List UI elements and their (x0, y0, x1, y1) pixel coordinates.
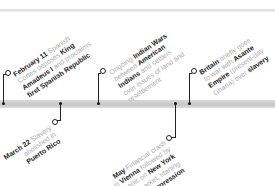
event-label: February 11 SpanishCortes deposes KingAm… (12, 27, 97, 99)
event-label: Britain briefly goesto war with AsanteEm… (198, 34, 270, 98)
event-circle-icon (5, 70, 11, 76)
event-stem (60, 104, 61, 120)
event-circle-icon (191, 68, 197, 74)
event-circle-icon (52, 119, 58, 125)
event-stem (98, 73, 99, 104)
event-circle-icon (100, 68, 106, 74)
timeline-bar (0, 100, 275, 108)
event-circle-icon (166, 135, 172, 141)
event-label: May Financial crashin Vienna followed by… (101, 139, 186, 186)
event-stem (175, 104, 176, 137)
event-label: March 22 Slaveryabolished inPuerto Rico (3, 124, 63, 176)
top-rule (0, 9, 275, 12)
event-stem (3, 74, 4, 104)
event-label: Ongoing Indian Warsbetween AmericanIndia… (108, 30, 191, 104)
event-stem (189, 73, 190, 104)
